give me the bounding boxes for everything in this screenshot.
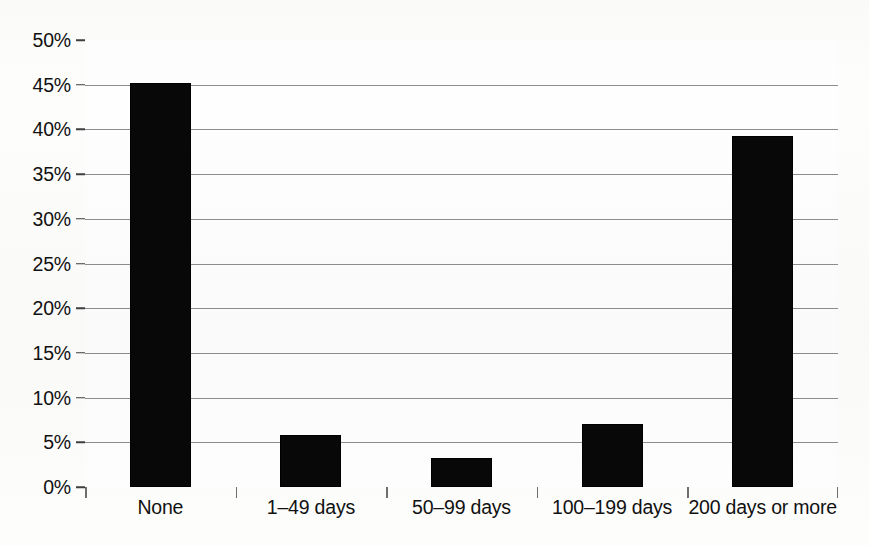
gridline-10 bbox=[85, 398, 838, 399]
x-axis-tick-label: 100–199 days bbox=[552, 496, 672, 519]
y-axis-tick-label: 10% bbox=[33, 386, 71, 409]
y-axis-tick-label: 35% bbox=[33, 163, 71, 186]
y-axis-tick-mark bbox=[76, 173, 85, 175]
x-axis-tick-label: 50–99 days bbox=[412, 496, 511, 519]
plot-area bbox=[85, 40, 838, 487]
y-axis-tick-mark bbox=[76, 84, 85, 86]
y-axis-tick-mark bbox=[76, 218, 85, 220]
bar bbox=[280, 435, 341, 487]
gridline-20 bbox=[85, 308, 838, 309]
gridline-25 bbox=[85, 264, 838, 265]
y-axis-tick-mark bbox=[76, 307, 85, 309]
bar bbox=[582, 424, 643, 487]
y-axis-tick-label: 30% bbox=[33, 207, 71, 230]
y-axis-tick-label: 25% bbox=[33, 252, 71, 275]
y-axis: 0%5%10%15%20%25%30%35%40%45%50% bbox=[0, 0, 85, 546]
y-axis-tick-label: 40% bbox=[33, 118, 71, 141]
x-axis-tick-label: 200 days or more bbox=[688, 496, 837, 519]
y-axis-tick-mark bbox=[76, 352, 85, 354]
bar bbox=[732, 136, 793, 487]
y-axis-tick-mark bbox=[76, 486, 85, 488]
y-axis-tick-label: 20% bbox=[33, 297, 71, 320]
y-axis-tick-label: 0% bbox=[43, 476, 71, 499]
y-axis-tick-label: 45% bbox=[33, 73, 71, 96]
gridline-35 bbox=[85, 174, 838, 175]
y-axis-tick-label: 50% bbox=[33, 29, 71, 52]
gridline-15 bbox=[85, 353, 838, 354]
gridline-40 bbox=[85, 129, 838, 130]
gridline-5 bbox=[85, 442, 838, 443]
gridline-30 bbox=[85, 219, 838, 220]
y-axis-tick-mark bbox=[76, 263, 85, 265]
bar bbox=[130, 83, 191, 487]
bar bbox=[431, 458, 492, 487]
y-axis-tick-mark bbox=[76, 129, 85, 131]
y-axis-tick-mark bbox=[76, 39, 85, 41]
x-axis-tick-label: 1–49 days bbox=[267, 496, 355, 519]
y-axis-tick-mark bbox=[76, 397, 85, 399]
y-axis-tick-mark bbox=[76, 442, 85, 444]
y-axis-tick-label: 5% bbox=[43, 431, 71, 454]
x-axis-tick-label: None bbox=[137, 496, 183, 519]
bar-chart-figure: 0%5%10%15%20%25%30%35%40%45%50% None1–49… bbox=[0, 0, 869, 546]
y-axis-tick-label: 15% bbox=[33, 341, 71, 364]
gridline-45 bbox=[85, 85, 838, 86]
x-axis-labels: None1–49 days50–99 days100–199 days200 d… bbox=[85, 496, 838, 532]
